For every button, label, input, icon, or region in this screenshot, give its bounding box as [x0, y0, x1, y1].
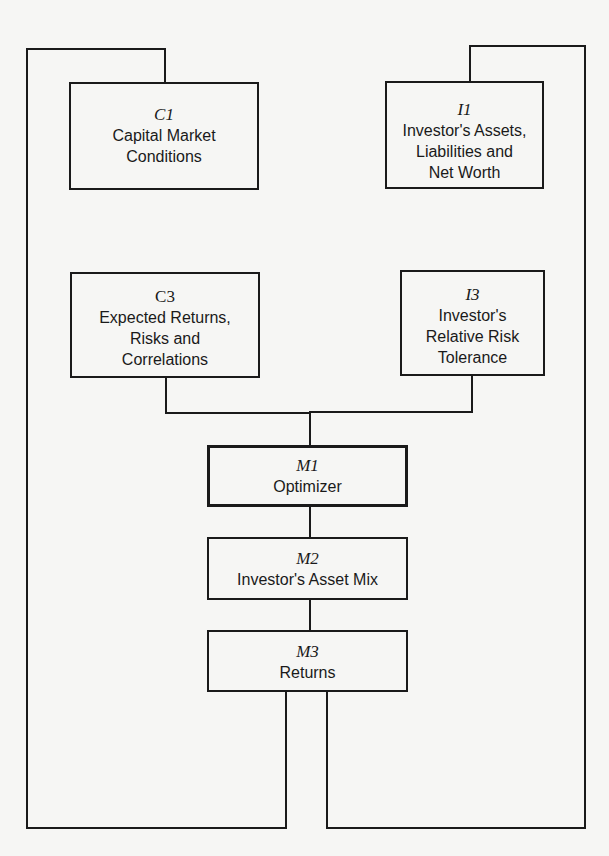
node-m1-optimizer: M1 Optimizer: [207, 445, 408, 507]
node-code: C3: [155, 286, 175, 307]
node-code: C1: [154, 104, 174, 125]
connector-c3-to-merge: [166, 377, 310, 413]
node-label: Investor's Asset Mix: [237, 569, 378, 590]
node-label: Investor's Relative Risk Tolerance: [426, 305, 519, 368]
node-code: M3: [296, 641, 319, 662]
connector-i3-to-merge: [310, 375, 472, 412]
node-label: Returns: [279, 662, 335, 683]
diagram-canvas: C1 Capital Market Conditions I1 Investor…: [0, 0, 609, 856]
node-label: Investor's Assets, Liabilities and Net W…: [403, 120, 527, 183]
node-m2-investors-asset-mix: M2 Investor's Asset Mix: [207, 537, 408, 600]
node-code: I3: [465, 284, 479, 305]
node-c3-expected-returns: C3 Expected Returns, Risks and Correlati…: [70, 272, 260, 378]
node-label: Optimizer: [273, 476, 341, 497]
node-label: Expected Returns, Risks and Correlations: [99, 307, 231, 370]
node-c1-capital-market-conditions: C1 Capital Market Conditions: [69, 82, 259, 190]
node-i1-investors-assets: I1 Investor's Assets, Liabilities and Ne…: [385, 81, 544, 189]
node-label: Capital Market Conditions: [112, 125, 215, 167]
node-code: M2: [296, 548, 319, 569]
node-code: M1: [296, 455, 319, 476]
node-i3-relative-risk-tolerance: I3 Investor's Relative Risk Tolerance: [400, 270, 545, 376]
node-code: I1: [457, 99, 471, 120]
node-m3-returns: M3 Returns: [207, 630, 408, 692]
